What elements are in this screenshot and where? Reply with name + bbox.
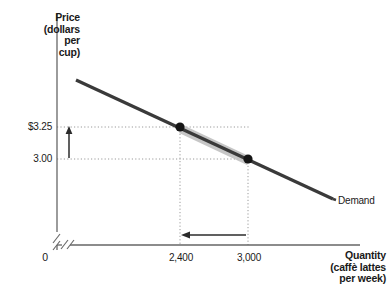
x-tick-label-2400: 2,400 <box>160 252 202 264</box>
origin-label: 0 <box>38 252 52 264</box>
y-tick-label-300: 3.00 <box>14 153 52 165</box>
demand-curve <box>76 80 333 199</box>
demand-curve-figure: Price (dollars per cup) Quantity (caffè … <box>0 0 391 303</box>
x-tick-label-3000: 3,000 <box>228 252 270 264</box>
point-b-marker <box>243 154 252 163</box>
x-axis-break-mark-1 <box>61 240 68 249</box>
x-axis-title: Quantity (caffè lattes per week) <box>300 250 386 285</box>
price-increase-arrow-icon <box>66 126 73 158</box>
demand-curve-label: Demand <box>338 195 375 207</box>
demand-label-leader <box>333 199 336 200</box>
y-axis-title: Price (dollars per cup) <box>8 12 80 58</box>
quantity-decrease-arrow-icon <box>181 231 246 238</box>
y-tick-label-325: $3.25 <box>14 121 52 133</box>
point-a-marker <box>175 122 184 131</box>
